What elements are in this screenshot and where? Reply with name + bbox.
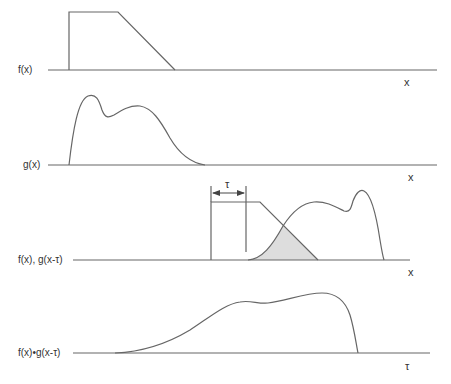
panel-2-axis-var: x: [408, 171, 414, 183]
panel-f: [48, 12, 437, 70]
panel-1-axis-var: x: [404, 76, 410, 88]
g-curve: [69, 95, 205, 165]
panel-4-axis-var: τ: [405, 360, 409, 372]
panel-3-label: f(x), g(x-τ): [18, 254, 63, 266]
tau-shift-label: τ: [225, 178, 229, 190]
panel-g: [48, 95, 437, 165]
convolution-diagram: [0, 0, 451, 384]
conv-curve: [115, 293, 358, 353]
overlap-area: [248, 226, 318, 260]
panel-f-g-shifted: [73, 186, 410, 260]
panel-1-label: f(x): [18, 64, 32, 76]
panel-2-label: g(x): [23, 159, 40, 171]
tau-arrowhead-right: [237, 190, 245, 196]
panel-convolution: [73, 293, 430, 353]
panel-3-axis-var: x: [408, 266, 414, 278]
tau-arrowhead-left: [212, 190, 220, 196]
f-curve: [69, 12, 175, 70]
panel-4-label: f(x)•g(x-τ): [18, 347, 60, 359]
